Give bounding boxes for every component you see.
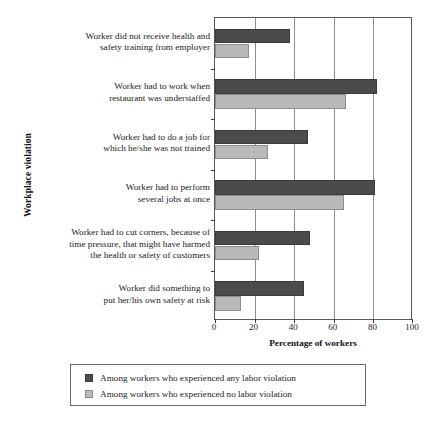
category-label-line: Worker had to do a job for bbox=[34, 132, 210, 143]
y-axis-tick bbox=[211, 69, 215, 70]
category-label-column: Worker did not receive health andsafety … bbox=[34, 17, 210, 320]
category-label: Worker did not receive health andsafety … bbox=[34, 31, 210, 54]
category-label: Worker had to work whenrestaurant was un… bbox=[34, 81, 210, 104]
x-tick-label-row: 020406080100 bbox=[214, 322, 412, 336]
x-tick-label: 20 bbox=[249, 322, 258, 332]
gridline bbox=[294, 18, 295, 319]
category-label: Worker had to do a job forwhich he/she w… bbox=[34, 132, 210, 155]
bar-no-violation bbox=[215, 145, 268, 160]
category-label-line: Worker had to cut corners, because of bbox=[34, 227, 210, 238]
bar-no-violation bbox=[215, 195, 344, 210]
plot-area bbox=[214, 17, 412, 320]
legend-label-any-violation: Among workers who experienced any labor … bbox=[100, 373, 296, 383]
y-axis-title: Workplace violation bbox=[23, 95, 33, 255]
legend: Among workers who experienced any labor … bbox=[70, 364, 366, 406]
y-axis-tick bbox=[211, 119, 215, 120]
y-axis-tick bbox=[211, 170, 215, 171]
category-label: Worker had to performseveral jobs at onc… bbox=[34, 182, 210, 205]
x-tick-label: 40 bbox=[289, 322, 298, 332]
bar-no-violation bbox=[215, 44, 249, 59]
x-tick-label: 0 bbox=[212, 322, 217, 332]
category-label-line: Worker had to perform bbox=[34, 182, 210, 193]
y-axis-tick bbox=[211, 220, 215, 221]
legend-entry-no-violation: Among workers who experienced no labor v… bbox=[85, 389, 292, 399]
bar-no-violation bbox=[215, 94, 346, 109]
bar-chart: Workplace violation Worker did not recei… bbox=[0, 0, 436, 426]
bar-any-violation bbox=[215, 130, 308, 145]
x-tick-label: 80 bbox=[368, 322, 377, 332]
category-label-line: restaurant was understaffed bbox=[34, 93, 210, 104]
bar-any-violation bbox=[215, 79, 377, 94]
category-label: Worker did something toput her/his own s… bbox=[34, 283, 210, 306]
category-label-line: safety training from employer bbox=[34, 42, 210, 53]
gridline bbox=[255, 18, 256, 319]
bar-any-violation bbox=[215, 231, 310, 246]
category-label-line: the health or safety of customers bbox=[34, 250, 210, 261]
legend-entry-any-violation: Among workers who experienced any labor … bbox=[85, 373, 296, 383]
bar-no-violation bbox=[215, 296, 241, 311]
category-label-line: several jobs at once bbox=[34, 194, 210, 205]
bar-no-violation bbox=[215, 246, 259, 261]
x-tick-label: 60 bbox=[328, 322, 337, 332]
x-tick-label: 100 bbox=[405, 322, 419, 332]
y-axis-tick bbox=[211, 271, 215, 272]
category-label-line: put her/his own safety at risk bbox=[34, 295, 210, 306]
bar-any-violation bbox=[215, 180, 375, 195]
category-label-line: Worker had to work when bbox=[34, 81, 210, 92]
legend-label-no-violation: Among workers who experienced no labor v… bbox=[100, 389, 292, 399]
category-label-line: Worker did something to bbox=[34, 283, 210, 294]
category-label: Worker had to cut corners, because oftim… bbox=[34, 227, 210, 261]
legend-swatch-light-icon bbox=[85, 390, 93, 398]
bar-any-violation bbox=[215, 281, 304, 296]
gridline bbox=[334, 18, 335, 319]
legend-swatch-dark-icon bbox=[85, 374, 93, 382]
category-label-line: Worker did not receive health and bbox=[34, 31, 210, 42]
category-label-line: which he/she was not trained bbox=[34, 143, 210, 154]
category-label-line: time pressure, that might have harmed bbox=[34, 239, 210, 250]
x-axis-title: Percentage of workers bbox=[214, 338, 412, 348]
gridline bbox=[373, 18, 374, 319]
bar-any-violation bbox=[215, 29, 290, 44]
